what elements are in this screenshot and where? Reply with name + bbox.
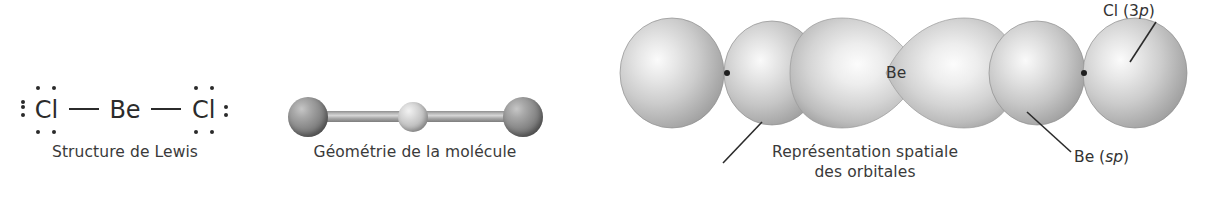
orbital-center-atom-label: Be [886,64,906,82]
lewis-lone-pair-bottom-right [194,129,214,134]
lewis-atom-label: Cl [192,96,215,124]
molecular-geometry-caption: Géométrie de la molécule [250,143,580,161]
orbital-lobe-chlorine-right-outer [1083,18,1187,128]
lone-pair-dot [21,113,25,117]
orbital-label-chlorine-3p-text: Cl (3p) [1103,2,1155,20]
lewis-bond-left [69,108,99,110]
lone-pair-dot [194,130,198,134]
lone-pair-dot [36,130,40,134]
lewis-structure-panel: Cl Be Cl [0,0,250,210]
lone-pair-dot [224,105,228,109]
lone-pair-dot [52,130,56,134]
lone-pair-dot [210,130,214,134]
lone-pair-dot [210,86,214,90]
orbital-label-beryllium-sp: Be (sp) [1074,148,1129,166]
lewis-lone-pair-bottom-left [36,129,56,134]
ball-stick-atom-chlorine-left [288,97,328,137]
lone-pair-dot [21,100,25,104]
orbital-node-dot-left [724,70,730,76]
lone-pair-dot [224,113,228,117]
lewis-lone-pair-right-side [224,100,229,122]
lewis-atom-chlorine-right: Cl [191,96,216,124]
ball-stick-atom-beryllium [398,102,428,132]
lone-pair-dot [36,86,40,90]
ball-stick-atom-chlorine-right [503,97,543,137]
lewis-atom-label: Cl [35,96,58,124]
orbital-representation-caption: Représentation spatiale des orbitales [740,142,990,183]
lewis-atom-chlorine-left: Cl [34,96,59,124]
lone-pair-dot [21,105,25,109]
lewis-atom-beryllium: Be [108,96,141,124]
lewis-lone-pair-left-side [21,100,26,122]
orbital-caption-line-2: des orbitales [814,163,915,181]
lewis-lone-pair-top-left [36,85,56,90]
orbital-label-chlorine-3p: Cl (3p) [1103,2,1155,20]
lone-pair-dot [194,86,198,90]
orbital-representation-panel: Be Cl (3p) Be (sp) Représentation spatia… [590,0,1216,210]
lewis-atom-label: Be [109,96,140,124]
orbital-lobe-chlorine-left-outer [620,18,724,128]
cropped-bottom-text-strip [0,200,1216,210]
lewis-lone-pair-top-right [194,85,214,90]
orbital-label-beryllium-sp-text: Be (sp) [1074,148,1129,166]
lewis-bond-right [151,108,181,110]
orbital-node-dot-right [1081,70,1087,76]
lone-pair-dot [52,86,56,90]
becl2-bonding-figure: Cl Be Cl [0,0,1216,210]
lewis-structure-formula: Cl Be Cl [0,96,250,124]
molecular-geometry-panel: Géométrie de la molécule [250,0,580,210]
lewis-structure-caption: Structure de Lewis [0,143,250,161]
orbital-caption-line-1: Représentation spatiale [772,143,958,161]
orbital-lobe-chlorine-right-inner [989,21,1085,125]
